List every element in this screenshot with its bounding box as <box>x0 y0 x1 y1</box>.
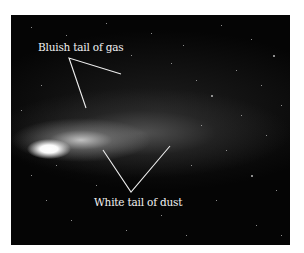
dust-pointer-lines <box>103 146 170 192</box>
gas-tail-label: Bluish tail of gas <box>38 41 124 53</box>
gas-pointer-lines <box>69 58 121 108</box>
annotation-lines <box>0 0 304 253</box>
dust-tail-label: White tail of dust <box>94 196 182 208</box>
